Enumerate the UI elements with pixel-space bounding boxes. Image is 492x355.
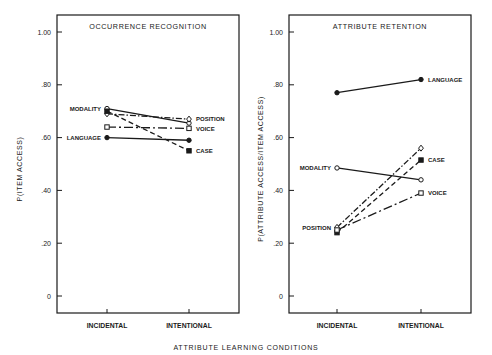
y-tick-label: .40	[273, 187, 283, 194]
series-label-language: LANGUAGE	[67, 135, 101, 141]
y-tick-label: .20	[273, 240, 283, 247]
y-tick-label: .80	[273, 81, 283, 88]
series-label-language: LANGUAGE	[428, 77, 462, 83]
y-tick-label: .80	[41, 81, 51, 88]
attribute-retention-panel: ATTRIBUTE RETENTION0.20.40.60.801.00INCI…	[257, 15, 471, 329]
y-tick-label: 0	[279, 293, 283, 300]
series-label-position: POSITION	[196, 116, 225, 122]
series-label-voice: VOICE	[196, 126, 215, 132]
series-line	[107, 111, 189, 151]
series-language: LANGUAGE	[67, 135, 192, 143]
chart-title: OCCURRENCE RECOGNITION	[89, 22, 206, 31]
chart-title: ATTRIBUTE RETENTION	[333, 22, 427, 31]
x-tick-label: INTENTIONAL	[166, 322, 212, 329]
x-tick-label: INCIDENTAL	[87, 322, 128, 329]
series-label-voice: VOICE	[428, 190, 447, 196]
series-line	[337, 160, 421, 233]
shared-x-axis-label: ATTRIBUTE LEARNING CONDITIONS	[173, 344, 318, 351]
data-point-marker	[187, 126, 191, 130]
y-tick-label: .40	[41, 187, 51, 194]
series-position: POSITION	[105, 111, 225, 123]
data-point-marker	[105, 109, 109, 113]
series-line	[337, 168, 421, 180]
y-tick-label: .60	[273, 134, 283, 141]
series-voice: VOICE	[105, 125, 215, 132]
series-voice: VOICE	[335, 190, 447, 232]
data-point-marker	[335, 166, 339, 170]
series-position: POSITION	[302, 145, 423, 231]
x-tick-label: INTENTIONAL	[398, 322, 444, 329]
series-label-modality: MODALITY	[70, 106, 101, 112]
series-label-modality: MODALITY	[300, 165, 331, 171]
series-language: LANGUAGE	[335, 77, 463, 95]
data-point-marker	[335, 91, 339, 95]
plot-frame	[289, 15, 471, 313]
y-tick-label: 1.00	[269, 29, 283, 36]
y-tick-label: 1.00	[37, 29, 51, 36]
y-axis-label: P(ATTRIBUTE ACCESS/ITEM ACCESS)	[257, 96, 265, 242]
y-tick-label: .20	[41, 240, 51, 247]
y-tick-label: 0	[47, 293, 51, 300]
data-point-marker	[105, 125, 109, 129]
plot-frame	[57, 15, 239, 313]
series-line	[337, 148, 421, 227]
figure: OCCURRENCE RECOGNITION0.20.40.60.801.00I…	[0, 0, 492, 355]
data-point-marker	[187, 149, 191, 153]
x-tick-label: INCIDENTAL	[317, 322, 358, 329]
occurrence-recognition-panel: OCCURRENCE RECOGNITION0.20.40.60.801.00I…	[16, 15, 239, 329]
series-label-case: CASE	[428, 157, 445, 163]
data-point-marker	[419, 158, 423, 162]
series-line	[107, 109, 189, 124]
data-point-marker	[335, 228, 339, 232]
data-point-marker	[187, 138, 191, 142]
data-point-marker	[419, 191, 423, 195]
y-tick-label: .60	[41, 134, 51, 141]
series-label-position: POSITION	[302, 225, 331, 231]
y-axis-label: P(ITEM ACCESS)	[16, 137, 24, 202]
data-point-marker	[105, 135, 109, 139]
data-point-marker	[419, 178, 423, 182]
series-line	[337, 80, 421, 93]
data-point-marker	[419, 77, 423, 81]
series-line	[107, 127, 189, 128]
series-label-case: CASE	[196, 148, 213, 154]
series-line	[337, 193, 421, 230]
series-line	[107, 138, 189, 141]
